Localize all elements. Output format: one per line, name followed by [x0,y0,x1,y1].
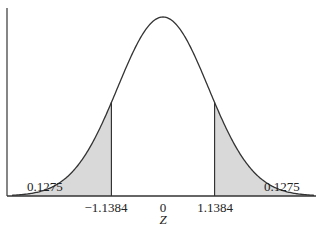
x-tick-label-positive-cutoff: 1.1384 [197,201,233,214]
x-axis-title: Z [159,213,166,226]
normal-curve [12,17,314,195]
right-tail-area-label: 0.1275 [264,180,300,193]
normal-distribution-chart [0,0,326,233]
x-tick-label-negative-cutoff: −1.1384 [84,201,127,214]
left-tail-area-label: 0.1275 [27,180,63,193]
